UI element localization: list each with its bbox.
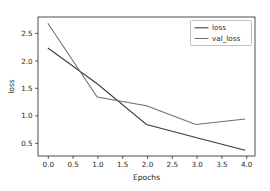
legend-label-val-loss: val_loss [212, 34, 240, 43]
y-tick-label: 1.5 [21, 84, 32, 93]
y-axis-title: loss [7, 79, 16, 94]
x-tick-label: 2.0 [142, 160, 154, 169]
x-tick-label: 4.0 [241, 160, 253, 169]
x-tick-label: 1.5 [117, 160, 128, 169]
y-tick-label: 2.5 [21, 29, 32, 38]
x-tick-label: 1.0 [92, 160, 104, 169]
y-tick-label: 2.0 [21, 57, 33, 66]
y-tick-labels: 0.5 1.0 1.5 2.0 2.5 [21, 29, 33, 148]
y-tick-label: 0.5 [21, 139, 32, 148]
x-tick-label: 0.0 [43, 160, 55, 169]
line-chart: 0.0 0.5 1.0 1.5 2.0 2.5 3.0 3.5 4.0 0.5 … [0, 0, 270, 191]
x-tick-label: 3.0 [191, 160, 203, 169]
x-tick-label: 2.5 [167, 160, 178, 169]
x-tick-labels: 0.0 0.5 1.0 1.5 2.0 2.5 3.0 3.5 4.0 [43, 160, 253, 169]
chart-figure: 0.0 0.5 1.0 1.5 2.0 2.5 3.0 3.5 4.0 0.5 … [0, 0, 270, 191]
legend-label-loss: loss [212, 23, 226, 32]
x-axis-title: Epochs [133, 173, 160, 182]
y-tick-label: 1.0 [21, 111, 33, 120]
x-tick-label: 3.5 [216, 160, 227, 169]
legend[interactable]: loss val_loss [191, 21, 252, 46]
x-tick-label: 0.5 [67, 160, 78, 169]
